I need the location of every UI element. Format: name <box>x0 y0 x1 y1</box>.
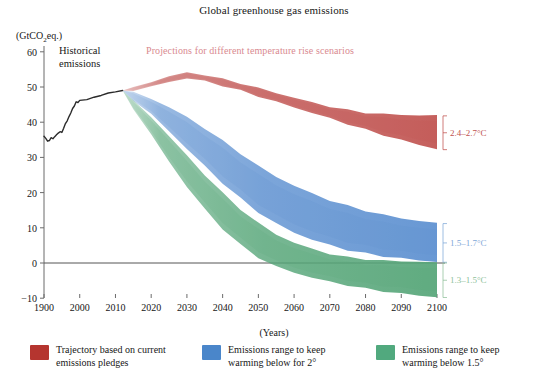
x-axis-tick-label: 2070 <box>320 302 340 313</box>
legend-color-swatch <box>376 345 395 360</box>
legend-item[interactable]: Emissions range to keepwarming below for… <box>202 344 325 369</box>
x-axis-tick-label: 2060 <box>284 302 304 313</box>
legend-label-line2: warming below 1.5° <box>402 357 499 370</box>
historical-emissions-label-line2: emissions <box>59 57 100 70</box>
y-axis-tick-label: 40 <box>3 117 37 128</box>
x-axis-tick-label: 2040 <box>213 302 233 313</box>
x-axis-tick-label: 1900 <box>34 302 54 313</box>
historical-emissions-label: Historical emissions <box>59 44 100 70</box>
chart-container: Global greenhouse gas emissions (GtCO2eq… <box>0 0 548 389</box>
annotation-bracket <box>443 224 447 263</box>
annotation-bracket <box>443 263 447 297</box>
y-axis-tick-label: 20 <box>3 187 37 198</box>
x-axis-tick-label: 2010 <box>105 302 125 313</box>
legend-item[interactable]: Trajectory based on currentemissions ple… <box>30 344 166 369</box>
temperature-range-annotation: 2.4–2.7°C <box>450 128 487 138</box>
historical-emissions-label-line1: Historical <box>59 44 100 57</box>
legend-label-line1: Emissions range to keep <box>402 344 499 357</box>
legend-color-swatch <box>202 345 221 360</box>
legend-label: Emissions range to keepwarming below 1.5… <box>402 344 499 369</box>
chart-title: Global greenhouse gas emissions <box>0 4 548 16</box>
y-axis-tick-label: 10 <box>3 222 37 233</box>
legend-label-line2: warming below for 2° <box>228 357 325 370</box>
x-axis-tick-label: 2020 <box>141 302 161 313</box>
y-axis-tick-label: 30 <box>3 152 37 163</box>
legend-color-swatch <box>30 345 49 360</box>
y-axis-unit-post: eq.) <box>47 30 62 41</box>
legend-label: Trajectory based on currentemissions ple… <box>56 344 166 369</box>
y-axis-tick-label: 60 <box>3 46 37 57</box>
historical-emissions-line <box>44 91 123 142</box>
chart-subtitle: Projections for different temperature ri… <box>146 45 354 56</box>
legend-label-line2: emissions pledges <box>56 357 166 370</box>
legend-label-line1: Emissions range to keep <box>228 344 325 357</box>
y-axis-tick-label: 50 <box>3 82 37 93</box>
x-axis-tick-label: 2100 <box>427 302 447 313</box>
annotation-bracket <box>443 116 447 150</box>
legend-label: Emissions range to keepwarming below for… <box>228 344 325 369</box>
legend-item[interactable]: Emissions range to keepwarming below 1.5… <box>376 344 499 369</box>
x-axis-tick-label: 2050 <box>248 302 268 313</box>
x-axis-tick-label: 2000 <box>70 302 90 313</box>
x-axis-tick-label: 2090 <box>391 302 411 313</box>
y-axis-tick-label: 0 <box>3 258 37 269</box>
chart-legend: Trajectory based on currentemissions ple… <box>30 344 530 384</box>
x-axis-tick-label: 2080 <box>356 302 376 313</box>
x-axis-label: (Years) <box>0 327 548 338</box>
y-axis-tick-label: −10 <box>3 293 37 304</box>
legend-label-line1: Trajectory based on current <box>56 344 166 357</box>
temperature-range-annotation: 1.3–1.5°C <box>450 275 487 285</box>
x-axis-tick-label: 2030 <box>177 302 197 313</box>
temperature-range-annotation: 1.5–1.7°C <box>450 238 487 248</box>
